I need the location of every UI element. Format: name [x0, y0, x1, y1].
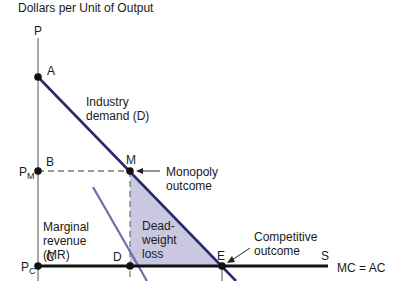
- label-deadweight-loss: Dead-weight loss: [142, 219, 178, 261]
- point-e: [218, 262, 226, 270]
- point-b: [34, 167, 42, 175]
- pm-main: P: [19, 165, 27, 179]
- label-point-b: B: [46, 155, 54, 169]
- pc-sub: C: [29, 266, 36, 276]
- label-monopoly-outcome: Monopoly outcome: [166, 165, 226, 193]
- label-marginal-revenue: Marginal revenue (MR): [43, 220, 115, 262]
- label-mc-ac: MC = AC: [337, 261, 385, 275]
- label-industry-demand: Industry demand (D): [86, 95, 158, 123]
- label-monopoly-price: PM: [19, 165, 35, 179]
- pc-main: P: [21, 260, 29, 274]
- label-point-e: E: [217, 249, 225, 263]
- competitive-arrow-shaft: [232, 248, 250, 260]
- point-a: [34, 73, 42, 81]
- label-point-m: M: [126, 153, 136, 167]
- label-competitive-price: PC: [21, 260, 36, 274]
- y-axis-symbol: P: [34, 24, 42, 38]
- label-point-a: A: [47, 64, 55, 78]
- y-axis-title: Dollars per Unit of Output: [18, 1, 153, 15]
- competitive-arrow-head-icon: [227, 256, 235, 263]
- point-m: [126, 167, 134, 175]
- label-competitive-outcome: Competitive outcome: [254, 230, 324, 258]
- monopoly-arrow-head-icon: [136, 168, 143, 174]
- point-d: [126, 262, 134, 270]
- pm-sub: M: [27, 171, 35, 181]
